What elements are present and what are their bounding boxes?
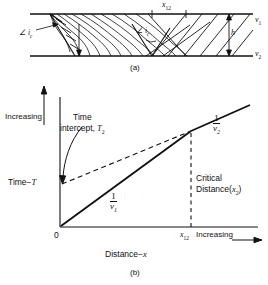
label-critical-angle-left: ∠ ic — [19, 29, 32, 39]
label-layer-thickness-h: h — [231, 29, 235, 37]
label-velocity-v1: v1 — [255, 16, 261, 26]
y-axis-title: Time−T — [8, 178, 36, 187]
seismic-refraction-figure: ∠ ic ∠ ic x12 v1 v2 h (a) — [0, 0, 268, 285]
slope-1-over-v1-label: 1 v1 — [110, 192, 117, 214]
panel-b-caption: (b) — [130, 269, 140, 277]
label-critical-angle-mid: ∠ ic — [136, 27, 149, 37]
label-velocity-v2: v2 — [255, 50, 261, 60]
refracted-wave-line — [191, 105, 250, 131]
x-axis-increasing-arrow — [232, 237, 262, 242]
time-intercept-label: Time intercept, T2 — [60, 112, 105, 136]
x-axis-title: Distance−x — [105, 250, 147, 259]
y-axis-increasing-arrow — [41, 86, 46, 125]
time-intercept-dashed-line — [62, 131, 191, 184]
x-tick-x12-label: x12 — [180, 231, 189, 241]
panel-a-caption: (a) — [130, 64, 140, 72]
direct-wave-line — [61, 131, 191, 226]
time-intercept-leader-arrow — [60, 127, 82, 184]
slope-1-over-v2-label: 1 v2 — [213, 114, 220, 136]
critical-distance-label: Critical Distance(x2) — [196, 173, 241, 197]
critical-ray-left — [50, 14, 75, 56]
x-axis-increasing-label: Increasing — [196, 231, 233, 239]
origin-label: 0 — [54, 231, 59, 240]
y-axis-increasing-label: Increasing — [5, 113, 42, 121]
left-angle-leader — [36, 23, 58, 30]
label-crossover-distance-x12: x12 — [162, 1, 171, 11]
